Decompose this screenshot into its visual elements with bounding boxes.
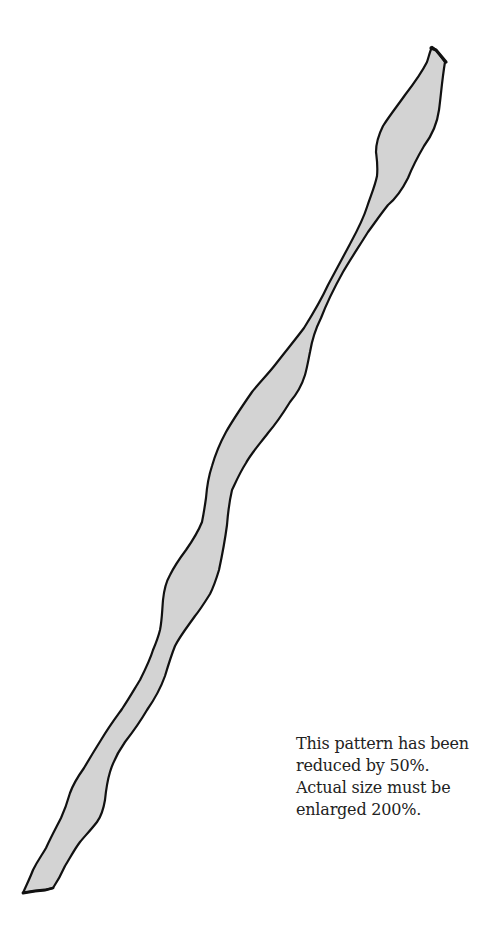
- pattern-scale-note: This pattern has been reduced by 50%. Ac…: [296, 733, 496, 821]
- note-line-4: enlarged 200%.: [296, 799, 496, 821]
- note-line-1: This pattern has been: [296, 733, 496, 755]
- note-line-3: Actual size must be: [296, 777, 496, 799]
- note-line-2: reduced by 50%.: [296, 755, 496, 777]
